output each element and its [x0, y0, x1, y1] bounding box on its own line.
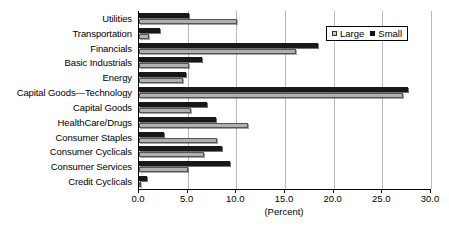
category-label: HealthCare/Drugs	[0, 115, 136, 130]
bar-group	[139, 100, 431, 115]
x-axis: 0.05.010.015.020.025.030.0	[138, 190, 430, 204]
legend-label: Small	[378, 28, 402, 39]
bar-large	[139, 34, 149, 39]
category-label: Transportation	[0, 26, 136, 41]
x-axis-title: (Percent)	[138, 206, 430, 217]
gridline	[431, 11, 432, 189]
bar-large	[139, 138, 217, 143]
category-label: Credit Cyclicals	[0, 174, 136, 189]
x-tick-label: 30.0	[421, 193, 440, 204]
category-label: Capital Goods	[0, 100, 136, 115]
bar-small	[139, 87, 408, 92]
bar-small	[139, 117, 216, 122]
chart-legend: LargeSmall	[326, 26, 408, 41]
bar-chart: UtilitiesTransportationFinancialsBasic I…	[0, 0, 449, 232]
bar-small	[139, 43, 318, 48]
bar-small	[139, 72, 186, 77]
bar-large	[139, 182, 141, 187]
legend-swatch-icon	[332, 31, 337, 36]
category-label: Consumer Staples	[0, 130, 136, 145]
bar-large	[139, 19, 237, 24]
category-label: Capital Goods—Technology	[0, 85, 136, 100]
bar-group	[139, 130, 431, 145]
bar-group	[139, 41, 431, 56]
bar-group	[139, 144, 431, 159]
x-tick-label: 20.0	[323, 193, 342, 204]
x-tick-label: 5.0	[180, 193, 193, 204]
bar-small	[139, 28, 160, 33]
bar-group	[139, 11, 431, 26]
legend-entry: Large	[332, 28, 364, 39]
legend-entry: Small	[370, 28, 402, 39]
bar-group	[139, 70, 431, 85]
category-label: Consumer Cyclicals	[0, 144, 136, 159]
bar-small	[139, 102, 207, 107]
bar-large	[139, 167, 188, 172]
category-label: Energy	[0, 70, 136, 85]
bar-small	[139, 13, 189, 18]
bar-large	[139, 152, 204, 157]
category-label: Utilities	[0, 11, 136, 26]
x-tick-label: 15.0	[275, 193, 294, 204]
x-tick-label: 0.0	[131, 193, 144, 204]
x-tick-label: 10.0	[226, 193, 245, 204]
bar-small	[139, 132, 164, 137]
bar-large	[139, 123, 248, 128]
bar-group	[139, 55, 431, 70]
bar-large	[139, 78, 183, 83]
bar-small	[139, 176, 147, 181]
bar-large	[139, 93, 403, 98]
category-label: Financials	[0, 41, 136, 56]
legend-swatch-icon	[370, 31, 375, 36]
bar-large	[139, 63, 189, 68]
legend-label: Large	[340, 28, 364, 39]
category-label: Basic Industrials	[0, 55, 136, 70]
category-label: Consumer Services	[0, 159, 136, 174]
bar-group	[139, 159, 431, 174]
bar-large	[139, 49, 296, 54]
bar-group	[139, 115, 431, 130]
bar-small	[139, 146, 222, 151]
bar-group	[139, 85, 431, 100]
bar-large	[139, 108, 191, 113]
x-tick-label: 25.0	[372, 193, 391, 204]
bar-group	[139, 174, 431, 189]
bar-small	[139, 57, 202, 62]
category-axis: UtilitiesTransportationFinancialsBasic I…	[0, 11, 136, 189]
bar-small	[139, 161, 230, 166]
